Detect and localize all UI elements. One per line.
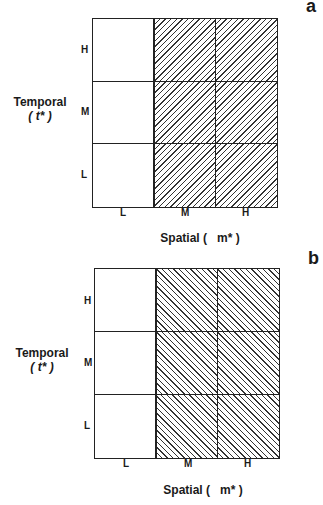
cell-L-L	[95, 395, 156, 458]
cell-H-H	[218, 269, 279, 332]
y-tick-L: L	[81, 169, 87, 180]
y-tick-M: M	[81, 106, 89, 117]
cell-L-M	[95, 332, 156, 395]
y-tick-H: H	[81, 44, 88, 55]
y-tick-H: H	[84, 295, 91, 306]
cell-M-M	[156, 332, 217, 395]
cell-H-L	[216, 144, 277, 207]
y-axis-symbol: ( t* )	[10, 109, 70, 123]
grid-a	[92, 18, 278, 208]
cell-L-H	[95, 269, 156, 332]
x-tick-L: L	[120, 207, 126, 218]
cell-M-H	[156, 269, 217, 332]
y-axis-label: Temporal ( t* )	[12, 346, 72, 374]
cell-H-M	[216, 82, 277, 145]
panel-letter-b: b	[308, 248, 319, 269]
x-tick-H: H	[244, 458, 251, 469]
x-tick-M: M	[181, 207, 189, 218]
cell-H-H	[216, 19, 277, 82]
cell-L-H	[93, 19, 154, 82]
cell-H-M	[218, 332, 279, 395]
y-axis-symbol: ( t* )	[12, 360, 72, 374]
grid-b	[94, 268, 280, 459]
y-axis-title: Temporal	[10, 95, 70, 109]
cell-M-L	[154, 144, 215, 207]
y-axis-title: Temporal	[12, 346, 72, 360]
cell-L-M	[93, 82, 154, 145]
x-tick-L: L	[123, 458, 129, 469]
cell-H-L	[218, 395, 279, 458]
x-axis-label: Spatial ( m* )	[140, 231, 260, 245]
x-axis-label: Spatial ( m* )	[143, 483, 263, 497]
y-tick-L: L	[84, 420, 90, 431]
cell-M-M	[154, 82, 215, 145]
cell-M-L	[156, 395, 217, 458]
panel-letter-a: a	[306, 0, 316, 17]
x-tick-M: M	[184, 458, 192, 469]
x-tick-H: H	[242, 207, 249, 218]
cell-L-L	[93, 144, 154, 207]
y-tick-M: M	[84, 357, 92, 368]
y-axis-label: Temporal ( t* )	[10, 95, 70, 123]
cell-M-H	[154, 19, 215, 82]
